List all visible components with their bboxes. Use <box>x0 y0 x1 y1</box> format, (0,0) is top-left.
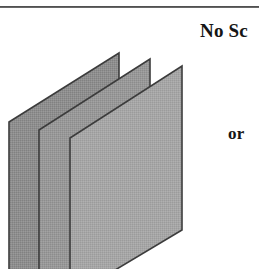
figure-label-secondary: or <box>228 124 244 144</box>
stacked-planes-diagram <box>0 44 225 269</box>
figure-label-primary: No Sc <box>200 19 248 42</box>
horizontal-rule <box>0 6 259 8</box>
figure-page: No Sc or <box>0 0 259 280</box>
